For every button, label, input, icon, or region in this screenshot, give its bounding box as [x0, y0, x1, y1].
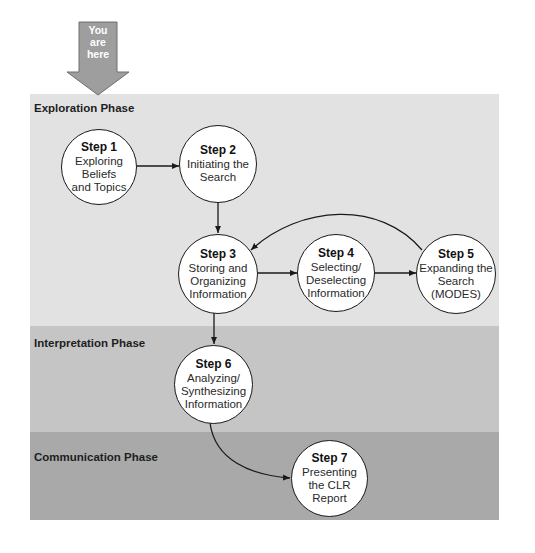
step-5-title: Step 5: [438, 248, 474, 261]
step-5-line: (MODES): [431, 288, 481, 301]
step-2-title: Step 2: [200, 144, 236, 157]
step-4-line: Deselecting: [306, 274, 366, 287]
step-5-line: Search: [438, 275, 474, 288]
step-5-node: Step 5 Expanding the Search (MODES): [416, 234, 496, 314]
step-7-line: Report: [312, 492, 347, 505]
step-3-line: Organizing: [190, 275, 246, 288]
step-1-title: Step 1: [81, 141, 117, 154]
step-3-line: Storing and: [189, 262, 248, 275]
step-3-title: Step 3: [200, 248, 236, 261]
step-6-node: Step 6 Analyzing/ Synthesizing Informati…: [174, 345, 253, 424]
step-4-title: Step 4: [318, 247, 354, 260]
step-5-line: Expanding the: [419, 262, 493, 275]
you-are-here-line-1: You: [79, 24, 117, 36]
step-6-line: Synthesizing: [181, 385, 246, 398]
you-are-here-label: You are here: [79, 24, 117, 60]
step-7-node: Step 7 Presenting the CLR Report: [291, 440, 368, 517]
step-6-title: Step 6: [195, 358, 231, 371]
step-2-line: Search: [200, 171, 236, 184]
step-3-node: Step 3 Storing and Organizing Informatio…: [178, 234, 258, 314]
step-1-line: Exploring: [75, 155, 123, 168]
step-4-line: Selecting/: [311, 261, 362, 274]
step-7-line: Presenting: [302, 466, 357, 479]
you-are-here-line-3: here: [79, 48, 117, 60]
step-1-line: and Topics: [72, 181, 127, 194]
step-1-node: Step 1 Exploring Beliefs and Topics: [61, 129, 137, 205]
step-6-line: Information: [185, 398, 243, 411]
step-1-line: Beliefs: [82, 168, 117, 181]
step-3-line: Information: [189, 288, 247, 301]
step-2-node: Step 2 Initiating the Search: [179, 125, 257, 203]
step-6-line: Analyzing/: [187, 372, 240, 385]
step-7-line: the CLR: [308, 479, 350, 492]
you-are-here-line-2: are: [79, 36, 117, 48]
step-4-line: Information: [307, 287, 365, 300]
step-7-title: Step 7: [311, 452, 347, 465]
step-2-line: Initiating the: [187, 158, 249, 171]
step-4-node: Step 4 Selecting/ Deselecting Informatio…: [297, 234, 375, 312]
